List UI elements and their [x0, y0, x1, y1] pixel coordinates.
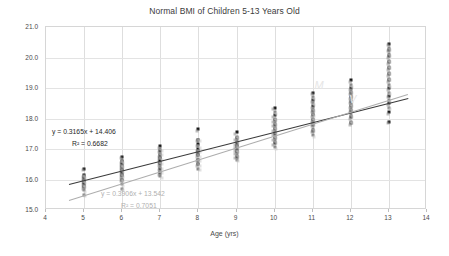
gridline-vertical	[198, 27, 199, 208]
data-point	[386, 113, 389, 116]
gridline-horizontal	[46, 119, 425, 120]
trendline-gray-r2: R² = 0.7051	[121, 202, 157, 209]
watermark-right: V	[349, 93, 356, 105]
data-point	[312, 129, 315, 132]
gridline-horizontal	[46, 180, 425, 181]
data-point	[389, 67, 392, 70]
gridline-horizontal	[46, 58, 425, 59]
data-point	[389, 48, 392, 51]
x-tick-label: 10	[264, 214, 284, 221]
data-point	[274, 113, 277, 116]
x-tick-label: 7	[149, 214, 169, 221]
data-point	[389, 55, 392, 58]
gridline-horizontal	[46, 88, 425, 89]
y-tick-label: 19.0	[0, 84, 38, 91]
x-tick-label: 13	[378, 214, 398, 221]
data-point	[198, 169, 201, 172]
x-tick-label: 9	[226, 214, 246, 221]
data-point	[389, 73, 392, 76]
chart-title: Normal BMI of Children 5-13 Years Old	[0, 6, 449, 16]
data-point	[274, 141, 277, 144]
x-tick-mark	[121, 209, 122, 212]
x-tick-mark	[426, 209, 427, 212]
x-tick-label: 14	[416, 214, 436, 221]
gridline-vertical	[237, 27, 238, 208]
data-point	[198, 140, 201, 143]
x-tick-label: 4	[35, 214, 55, 221]
data-point	[389, 108, 392, 111]
x-tick-mark	[159, 209, 160, 212]
x-tick-mark	[350, 209, 351, 212]
trendline-dark-equation: y = 0.3165x + 14.406	[52, 128, 116, 135]
trendline-gray-equation: y = 0.3906x + 13.542	[101, 190, 165, 197]
x-tick-mark	[236, 209, 237, 212]
trendline-gray	[69, 94, 408, 201]
data-point	[236, 160, 239, 163]
y-tick-label: 20.0	[0, 53, 38, 60]
data-point	[386, 122, 389, 125]
x-tick-label: 8	[187, 214, 207, 221]
x-tick-mark	[388, 209, 389, 212]
data-point	[389, 79, 392, 82]
x-axis-title: Age (yrs)	[0, 230, 449, 237]
y-tick-label: 15.0	[0, 206, 38, 213]
x-tick-label: 11	[302, 214, 322, 221]
watermark-left: M	[315, 79, 324, 91]
plot-area: MV y = 0.3165x + 14.406 R² = 0.6682 y = …	[45, 26, 426, 209]
data-point	[351, 85, 354, 88]
data-point	[160, 177, 163, 180]
data-point	[351, 122, 354, 125]
data-point	[389, 93, 392, 96]
x-tick-mark	[83, 209, 84, 212]
data-point	[196, 129, 199, 132]
data-point	[389, 61, 392, 64]
data-point	[312, 103, 315, 106]
x-tick-label: 6	[111, 214, 131, 221]
chart-container: Normal BMI of Children 5-13 Years Old BM…	[0, 0, 449, 256]
data-point	[389, 85, 392, 88]
gridline-vertical	[160, 27, 161, 208]
y-tick-label: 18.0	[0, 114, 38, 121]
x-tick-mark	[45, 209, 46, 212]
x-tick-label: 12	[340, 214, 360, 221]
data-point	[81, 169, 84, 172]
data-point	[312, 97, 315, 100]
x-tick-mark	[274, 209, 275, 212]
data-point	[351, 116, 354, 119]
y-tick-label: 21.0	[0, 23, 38, 30]
y-tick-label: 17.0	[0, 145, 38, 152]
data-point	[312, 135, 315, 138]
x-tick-mark	[197, 209, 198, 212]
data-point	[274, 148, 277, 151]
trendline-dark-r2: R² = 0.6682	[72, 140, 108, 147]
y-tick-label: 16.0	[0, 175, 38, 182]
x-tick-label: 5	[73, 214, 93, 221]
x-tick-mark	[312, 209, 313, 212]
